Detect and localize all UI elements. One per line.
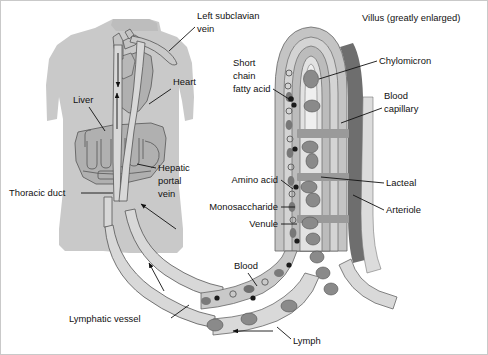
chylomicron-label: Chylomicron bbox=[379, 55, 431, 66]
chylomicron-particle bbox=[306, 233, 320, 245]
chylomicron-particle bbox=[324, 283, 338, 295]
blood-cell bbox=[274, 269, 284, 277]
chylomicron-particle bbox=[301, 181, 317, 193]
blood-cell-dark bbox=[214, 295, 219, 300]
nutrient-oval bbox=[290, 228, 297, 238]
blood-cell-dark bbox=[286, 262, 291, 267]
heart-label: Heart bbox=[173, 76, 196, 87]
chylomicron-particle bbox=[302, 217, 318, 229]
blood-capillary-right-band bbox=[361, 97, 381, 273]
chylomicron-particle bbox=[281, 300, 297, 312]
liver-label: Liver bbox=[73, 94, 93, 105]
lymph-label: Lymph bbox=[293, 335, 321, 346]
blood-cell bbox=[201, 297, 211, 305]
nutrient-oval bbox=[287, 148, 294, 158]
amino-acid-label: Amino acid bbox=[232, 174, 278, 185]
short-chain-fatty-acid-dot bbox=[288, 96, 294, 102]
arteriole-label: Arteriole bbox=[386, 204, 421, 215]
lymphatic-vessel-label: Lymphatic vessel bbox=[69, 313, 141, 324]
left-subclavian-vein-label-line2: vein bbox=[197, 23, 214, 34]
hepatic-portal-vein-label-line2: portal bbox=[158, 175, 181, 186]
label-blood: Blood bbox=[234, 260, 258, 286]
chylomicron-particle bbox=[306, 154, 318, 169]
hepatic-portal-vein-label-line3: vein bbox=[158, 188, 175, 199]
chylomicron-particle bbox=[302, 141, 318, 153]
blood-cell bbox=[244, 285, 255, 293]
short-chain-fatty-acid-label-line2: chain bbox=[233, 70, 255, 81]
inferior-vessel-branch bbox=[104, 197, 112, 227]
chylomicron-particle bbox=[310, 251, 324, 263]
thoracic-duct-label: Thoracic duct bbox=[9, 187, 66, 198]
amino-acid-dot bbox=[293, 184, 298, 189]
left-subclavian-vein-label-line1: Left subclavian bbox=[197, 10, 260, 21]
amino-acid-dot bbox=[291, 102, 296, 107]
chylomicron-particle bbox=[304, 70, 319, 88]
venule-label: Venule bbox=[249, 218, 278, 229]
villus-title-label: Villus (greatly enlarged) bbox=[362, 12, 460, 23]
lipid-absorption-diagram: Left subclavian vein Heart Liver Hepatic… bbox=[1, 1, 488, 355]
blood-capillary-label-line2: capillary bbox=[384, 103, 419, 114]
figure-frame: Left subclavian vein Heart Liver Hepatic… bbox=[0, 0, 488, 355]
short-chain-fatty-acid-label-line3: fatty acid bbox=[233, 83, 271, 94]
chylomicron-particle bbox=[207, 319, 223, 331]
hepatic-portal-vein-label-line1: Hepatic bbox=[158, 162, 190, 173]
short-chain-fatty-acid-label-line1: Short bbox=[233, 57, 256, 68]
chylomicron-particle bbox=[304, 100, 320, 112]
chylomicron-particle bbox=[241, 313, 257, 325]
nutrient-oval bbox=[286, 120, 293, 130]
neck-shadow bbox=[111, 19, 158, 31]
amino-acid-dot bbox=[292, 146, 297, 151]
lymph-leader bbox=[277, 327, 291, 339]
blood-cell-dark bbox=[250, 295, 255, 300]
thoracic-duct-vessel bbox=[113, 45, 122, 201]
blood-label: Blood bbox=[234, 260, 258, 271]
blood-capillary-label-line1: Blood bbox=[384, 90, 408, 101]
lacteal-label: Lacteal bbox=[386, 177, 416, 188]
label-lymph: Lymph bbox=[277, 327, 321, 346]
amino-acid-dot bbox=[294, 238, 299, 243]
nutrient-oval bbox=[288, 176, 295, 186]
chylomicron-particle bbox=[306, 193, 320, 207]
monosaccharide-label: Monosaccharide bbox=[209, 201, 278, 212]
